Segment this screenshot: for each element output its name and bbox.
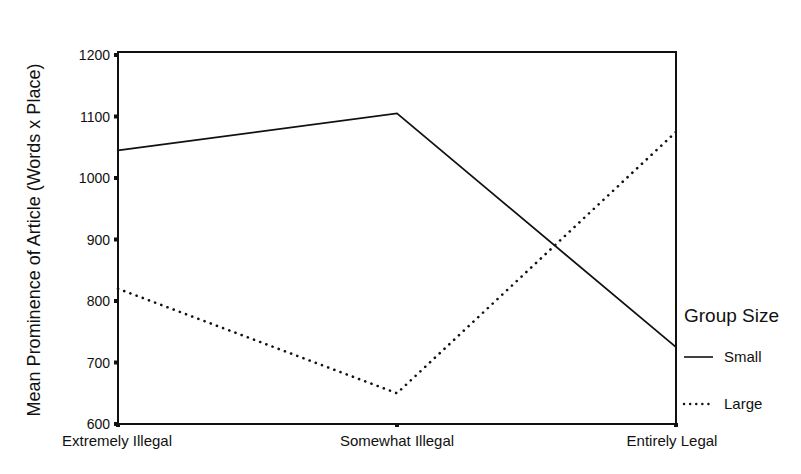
y-tick-label: 1100: [80, 109, 110, 125]
x-category-label: Somewhat Illegal: [340, 432, 454, 449]
legend: Group Size SmallLarge: [684, 305, 779, 412]
x-tick-mark: [674, 423, 678, 427]
y-tick-mark: [114, 176, 118, 180]
y-tick-mark: [114, 115, 118, 119]
series-line-small: [118, 113, 676, 347]
x-tick-mark: [395, 423, 399, 427]
y-tick-mark: [114, 299, 118, 303]
y-tick-label: 1000: [79, 170, 110, 186]
y-tick-mark: [114, 238, 118, 242]
legend-label-large: Large: [724, 395, 762, 412]
series-lines: [118, 113, 676, 393]
y-tick-mark: [114, 361, 118, 365]
legend-label-small: Small: [724, 348, 762, 365]
x-category-label: Entirely Legal: [627, 432, 718, 449]
line-chart: 600700800900100011001200 Extremely Illeg…: [0, 0, 801, 474]
y-tick-label: 900: [87, 232, 111, 248]
y-tick-label: 1200: [79, 47, 110, 63]
y-tick-label: 700: [87, 355, 111, 371]
x-axis: Extremely IllegalSomewhat IllegalEntirel…: [62, 423, 717, 449]
y-axis-title: Mean Prominence of Article (Words x Plac…: [24, 64, 44, 417]
y-tick-label: 600: [87, 416, 111, 432]
legend-title: Group Size: [684, 305, 779, 326]
series-line-large: [118, 132, 676, 393]
x-category-label: Extremely Illegal: [62, 432, 172, 449]
y-tick-mark: [114, 53, 118, 57]
plot-border: [118, 52, 676, 424]
x-tick-mark: [116, 423, 120, 427]
y-tick-label: 800: [87, 293, 111, 309]
plot-frame: [118, 52, 676, 424]
y-axis: 600700800900100011001200: [79, 47, 118, 432]
